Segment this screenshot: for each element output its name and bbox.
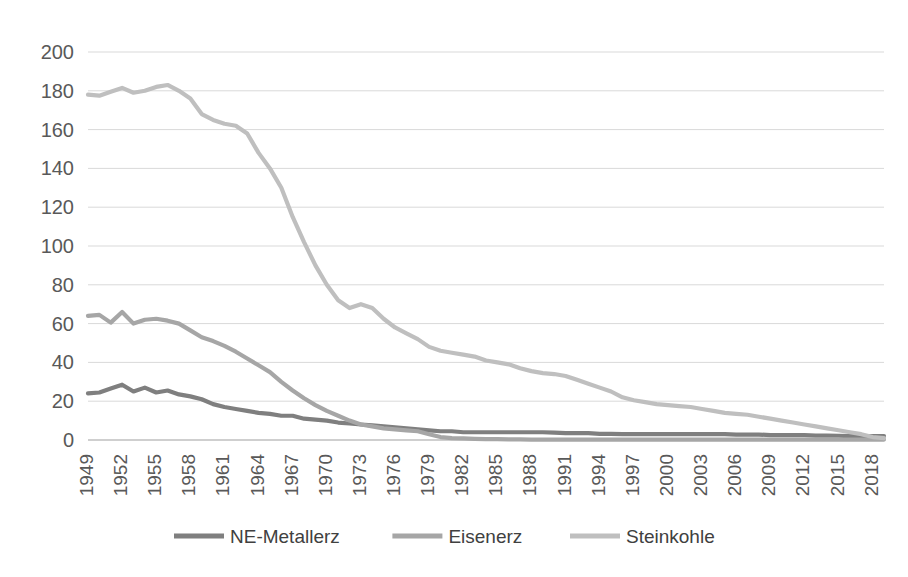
x-tick-label: 2000 bbox=[656, 454, 677, 496]
y-tick-label: 100 bbox=[41, 235, 74, 257]
legend-label-ne-metallerz: NE-Metallerz bbox=[230, 526, 340, 547]
x-tick-label: 1955 bbox=[144, 454, 165, 496]
x-tick-label: 1952 bbox=[110, 454, 131, 496]
x-tick-label: 2015 bbox=[827, 454, 848, 496]
y-tick-label: 0 bbox=[63, 429, 74, 451]
x-axis-labels: 1949195219551958196119641967197019731976… bbox=[76, 454, 882, 497]
series-group bbox=[88, 85, 884, 440]
y-tick-label: 40 bbox=[52, 351, 74, 373]
legend-item-eisenerz[interactable]: Eisenerz bbox=[392, 526, 522, 547]
gridlines bbox=[88, 52, 884, 440]
x-tick-label: 1967 bbox=[281, 454, 302, 496]
x-tick-label: 1958 bbox=[178, 454, 199, 496]
y-tick-label: 120 bbox=[41, 196, 74, 218]
x-tick-label: 1982 bbox=[451, 454, 472, 496]
x-tick-label: 2009 bbox=[758, 454, 779, 496]
x-tick-label: 1964 bbox=[247, 454, 268, 497]
legend: NE-MetallerzEisenerzSteinkohle bbox=[174, 526, 715, 547]
y-tick-label: 160 bbox=[41, 119, 74, 141]
series-line-steinkohle bbox=[88, 85, 884, 438]
y-tick-label: 180 bbox=[41, 80, 74, 102]
y-tick-label: 200 bbox=[41, 41, 74, 63]
series-line-ne-metallerz bbox=[88, 385, 884, 436]
x-tick-label: 1961 bbox=[212, 454, 233, 496]
legend-label-eisenerz: Eisenerz bbox=[448, 526, 522, 547]
x-tick-label: 2003 bbox=[690, 454, 711, 496]
y-tick-label: 140 bbox=[41, 157, 74, 179]
line-chart: 0204060801001201401601802001949195219551… bbox=[0, 0, 908, 577]
x-tick-label: 2012 bbox=[792, 454, 813, 496]
series-line-eisenerz bbox=[88, 312, 884, 440]
y-axis-labels: 020406080100120140160180200 bbox=[41, 41, 74, 451]
legend-label-steinkohle: Steinkohle bbox=[626, 526, 715, 547]
x-tick-label: 1994 bbox=[588, 454, 609, 497]
y-tick-label: 60 bbox=[52, 313, 74, 335]
x-tick-label: 2006 bbox=[724, 454, 745, 496]
chart-container: 0204060801001201401601802001949195219551… bbox=[0, 0, 908, 577]
x-tick-label: 1973 bbox=[349, 454, 370, 496]
legend-item-steinkohle[interactable]: Steinkohle bbox=[570, 526, 715, 547]
x-tick-label: 1976 bbox=[383, 454, 404, 496]
y-tick-label: 80 bbox=[52, 274, 74, 296]
x-tick-label: 2018 bbox=[861, 454, 882, 496]
x-tick-label: 1991 bbox=[554, 454, 575, 496]
x-tick-label: 1985 bbox=[485, 454, 506, 496]
y-tick-label: 20 bbox=[52, 390, 74, 412]
x-tick-label: 1970 bbox=[315, 454, 336, 496]
x-tick-label: 1979 bbox=[417, 454, 438, 496]
x-tick-label: 1997 bbox=[622, 454, 643, 496]
x-tick-label: 1988 bbox=[519, 454, 540, 496]
x-tick-label: 1949 bbox=[76, 454, 97, 496]
legend-item-ne-metallerz[interactable]: NE-Metallerz bbox=[174, 526, 340, 547]
